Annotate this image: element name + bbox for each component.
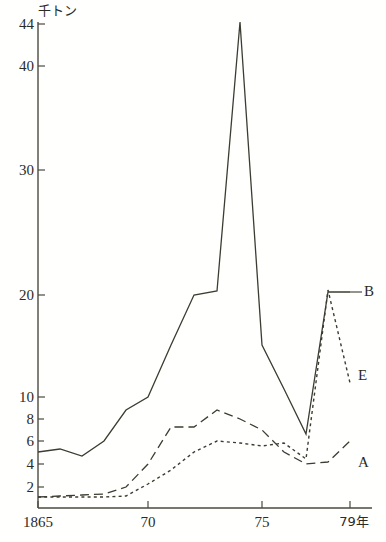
series-line-e [38, 290, 350, 497]
y-tick-label-6: 6 [2, 434, 34, 449]
y-axis-unit-label: 千トン [38, 4, 77, 17]
y-tick-label-8: 8 [2, 412, 34, 427]
series-label-a: A [358, 455, 369, 470]
x-tick-label-1875: 75 [242, 515, 282, 530]
y-tick-label-4: 4 [2, 457, 34, 472]
y-tick-label-40: 40 [2, 59, 34, 74]
y-tick-label-30: 30 [2, 163, 34, 178]
y-tick-label-2: 2 [2, 480, 34, 495]
y-tick-label-10: 10 [2, 390, 34, 405]
chart-canvas [0, 0, 386, 542]
line-chart: 千トン 44 40 30 20 10 8 6 4 2 1865 70 75 79… [0, 0, 386, 542]
y-tick-label-44: 44 [2, 17, 34, 32]
x-tick-label-1870: 70 [128, 515, 168, 530]
x-tick-label-1865: 1865 [8, 515, 68, 530]
series-line-b [38, 22, 350, 456]
series-label-e: E [358, 368, 367, 383]
x-tick-label-1879: 79年 [330, 515, 378, 528]
series-label-b: B [364, 284, 374, 299]
y-tick-label-20: 20 [2, 288, 34, 303]
